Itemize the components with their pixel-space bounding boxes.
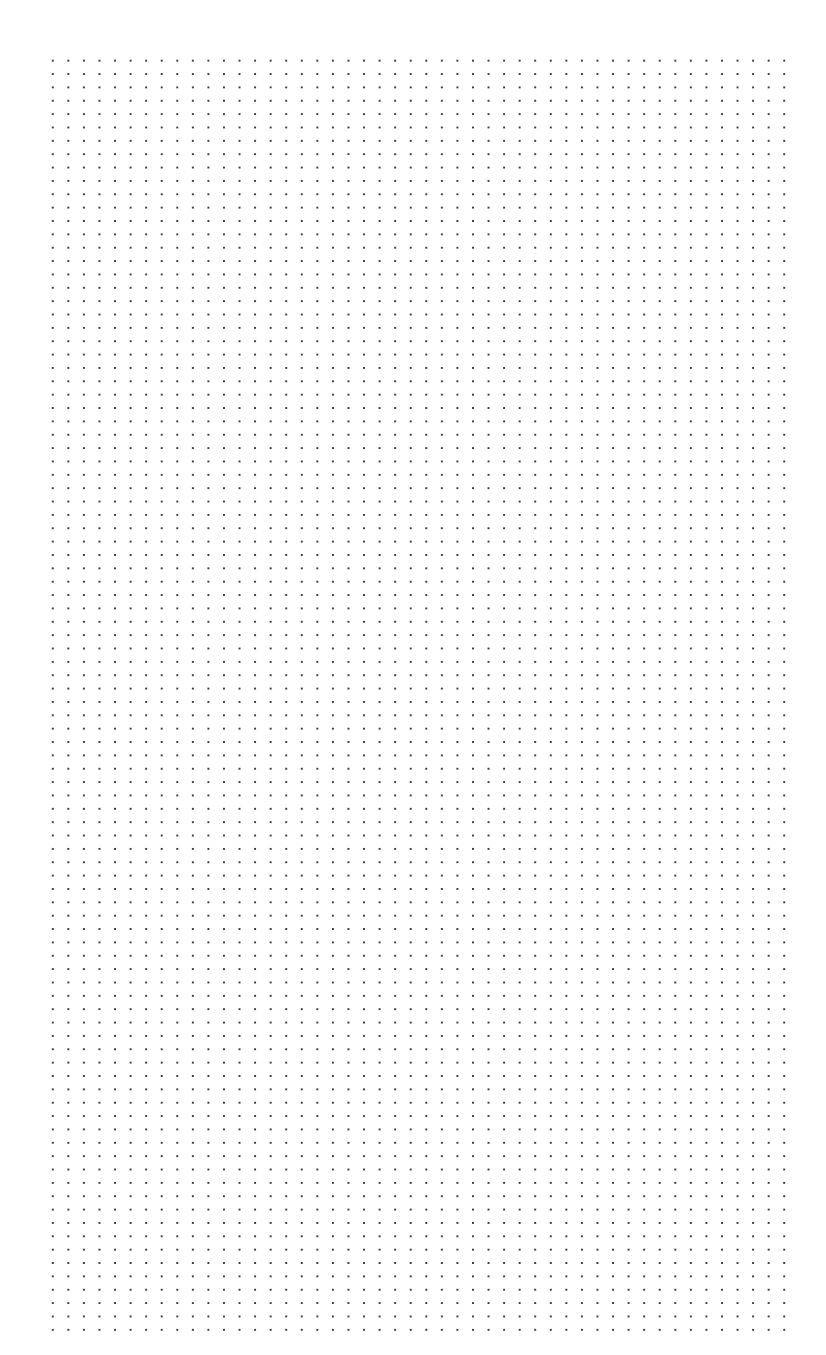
dot-grid xyxy=(45,54,792,1337)
dot-grid-page xyxy=(0,0,826,1355)
